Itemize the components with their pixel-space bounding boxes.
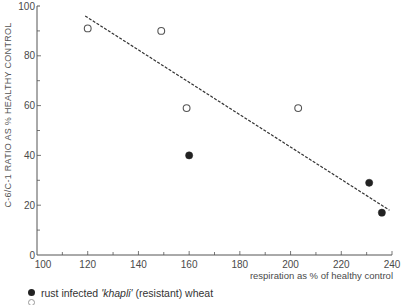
x-tick-label: 240 [384,259,401,270]
open-circle-icon [28,299,35,305]
y-tick-label: 40 [24,150,36,161]
legend-text: rust infected [41,287,101,299]
x-tick-label: 200 [282,259,299,270]
y-tick-label: 100 [18,1,35,12]
legend-label: rust infected 'khapli' (resistant) wheat [41,287,213,299]
open-data-point [183,105,190,112]
axes [37,6,392,255]
filled-data-point [366,179,373,186]
data-points [84,25,385,216]
x-tick-label: 160 [181,259,198,270]
open-data-point [295,105,302,112]
legend: rust infected 'khapli' (resistant) wheat [28,286,213,305]
y-axis-label: C-6/C-1 RATIO AS % HEALTHY CONTROL [3,22,13,207]
tick-labels: 100120140160180200220240020406080100 [18,1,400,271]
x-tick-label: 220 [333,259,350,270]
axis-ticks [37,31,392,255]
open-data-point [84,25,91,32]
filled-data-point [378,209,385,216]
x-tick-label: 120 [79,259,96,270]
filled-circle-icon [28,289,35,296]
x-tick-label: 100 [35,259,52,270]
y-tick-label: 20 [24,200,36,211]
y-tick-label: 60 [24,100,36,111]
legend-entry-open [28,299,213,305]
x-axis-label: respiration as % of healthy control [250,270,393,281]
trend-line [85,16,389,210]
y-tick-label: 80 [24,50,36,61]
x-tick-label: 180 [232,259,249,270]
filled-data-point [186,152,193,159]
legend-text-italic: 'khapli' [101,287,132,299]
x-tick-label: 140 [130,259,147,270]
open-data-point [158,28,165,35]
y-tick-label: 0 [29,250,35,261]
legend-entry-filled: rust infected 'khapli' (resistant) wheat [28,286,213,299]
regression-line [85,16,389,210]
legend-text: (resistant) wheat [133,287,214,299]
